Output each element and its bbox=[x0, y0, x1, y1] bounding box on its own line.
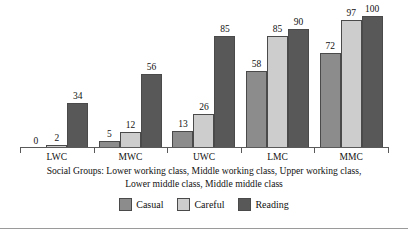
legend-label-reading: Reading bbox=[255, 199, 288, 211]
x-axis-line bbox=[20, 147, 388, 148]
legend-swatch-casual bbox=[119, 198, 132, 211]
legend-item-casual: Casual bbox=[119, 198, 163, 211]
bar-value-label: 100 bbox=[355, 4, 389, 14]
bar-rect[interactable] bbox=[141, 74, 162, 148]
group-label-mmc: MMC bbox=[316, 151, 386, 163]
bar-uwc-casual[interactable]: 13 bbox=[172, 10, 193, 148]
group-label-uwc: UWC bbox=[169, 151, 239, 163]
bar-value-label: 34 bbox=[61, 91, 95, 101]
footer-divider bbox=[0, 228, 408, 229]
bar-lmc-reading[interactable]: 90 bbox=[288, 10, 309, 148]
chart-legend: Casual Careful Reading bbox=[0, 198, 408, 211]
group-label-lwc: LWC bbox=[22, 151, 92, 163]
bar-group-mwc: 51256 bbox=[94, 10, 168, 148]
bar-lmc-careful[interactable]: 85 bbox=[267, 10, 288, 148]
bar-lwc-casual[interactable]: 0 bbox=[25, 10, 46, 148]
bar-rect[interactable] bbox=[341, 20, 362, 148]
bar-rect[interactable] bbox=[288, 29, 309, 148]
bar-group-bars: 588590 bbox=[241, 10, 315, 148]
bar-mwc-reading[interactable]: 56 bbox=[141, 10, 162, 148]
caption-line-1: Social Groups: Lower working class, Midd… bbox=[0, 165, 408, 178]
legend-label-careful: Careful bbox=[194, 199, 224, 211]
bar-group-bars: 0234 bbox=[20, 10, 94, 148]
bar-mwc-careful[interactable]: 12 bbox=[120, 10, 141, 148]
bar-group-bars: 132685 bbox=[167, 10, 241, 148]
legend-swatch-reading bbox=[238, 198, 251, 211]
bar-chart-figure: 0234512561326855885907297100 Social Grou… bbox=[0, 0, 408, 238]
legend-swatch-careful bbox=[177, 198, 190, 211]
plot-area: 0234512561326855885907297100 bbox=[20, 10, 388, 148]
bar-group-mmc: 7297100 bbox=[314, 10, 388, 148]
group-label-mwc: MWC bbox=[95, 151, 165, 163]
legend-label-casual: Casual bbox=[136, 199, 163, 211]
bar-rect[interactable] bbox=[120, 132, 141, 148]
bar-rect[interactable] bbox=[362, 16, 383, 148]
bar-rect[interactable] bbox=[267, 36, 288, 148]
axis-tick bbox=[388, 147, 389, 153]
caption-line-2: Lower middle class, Middle middle class bbox=[0, 178, 408, 191]
bar-rect[interactable] bbox=[172, 131, 193, 148]
bar-mmc-reading[interactable]: 100 bbox=[362, 10, 383, 148]
bar-group-bars: 7297100 bbox=[314, 10, 388, 148]
bar-value-label: 56 bbox=[134, 62, 168, 72]
bar-lwc-reading[interactable]: 34 bbox=[67, 10, 88, 148]
bar-group-lmc: 588590 bbox=[241, 10, 315, 148]
legend-item-careful: Careful bbox=[177, 198, 224, 211]
legend-item-reading: Reading bbox=[238, 198, 288, 211]
bar-mmc-casual[interactable]: 72 bbox=[320, 10, 341, 148]
bar-rect[interactable] bbox=[193, 114, 214, 148]
bar-value-label: 85 bbox=[208, 24, 242, 34]
group-label-lmc: LMC bbox=[243, 151, 313, 163]
bar-group-bars: 51256 bbox=[94, 10, 168, 148]
bar-rect[interactable] bbox=[67, 103, 88, 148]
bar-uwc-reading[interactable]: 85 bbox=[214, 10, 235, 148]
bar-group-lwc: 0234 bbox=[20, 10, 94, 148]
bar-rect[interactable] bbox=[246, 71, 267, 148]
chart-caption: Social Groups: Lower working class, Midd… bbox=[0, 165, 408, 190]
bar-group-uwc: 132685 bbox=[167, 10, 241, 148]
bar-lwc-careful[interactable]: 2 bbox=[46, 10, 67, 148]
bar-rect[interactable] bbox=[320, 53, 341, 148]
bar-value-label: 90 bbox=[282, 17, 316, 27]
bar-rect[interactable] bbox=[214, 36, 235, 148]
bar-mmc-careful[interactable]: 97 bbox=[341, 10, 362, 148]
